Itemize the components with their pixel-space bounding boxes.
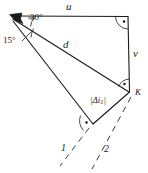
label-u: u [66,1,72,12]
right-angle-arc-bottom-icon [80,116,84,131]
angle-arc-15-icon [31,29,34,38]
right-angle-arc-top-right-icon [116,17,129,30]
label-delta-i-main: |Δi [90,95,100,105]
label-angle-30: 30° [30,13,43,22]
figure-canvas [0,0,148,173]
label-d: d [63,39,69,50]
right-angle-dot-bottom-icon [85,121,88,124]
right-angle-dot-top-right-icon [123,20,126,23]
label-delta-i-bar: | [104,95,106,105]
arrowhead-icon [10,13,24,24]
label-ray-2: 2 [104,144,109,154]
right-angle-arc-K-icon [119,79,130,87]
line-v [128,17,130,93]
line-d [13,19,129,92]
label-K: K [135,88,141,97]
geometry-figure: u v d K 30° 15° |Δi1| 1 2 [0,0,148,173]
label-v: v [133,48,138,59]
label-angle-15: 15° [3,36,16,45]
line-lower-ray [13,21,93,124]
label-delta-i: |Δi1| [90,96,106,106]
right-angle-dot-K-icon [123,83,126,86]
label-ray-1: 1 [61,143,66,153]
